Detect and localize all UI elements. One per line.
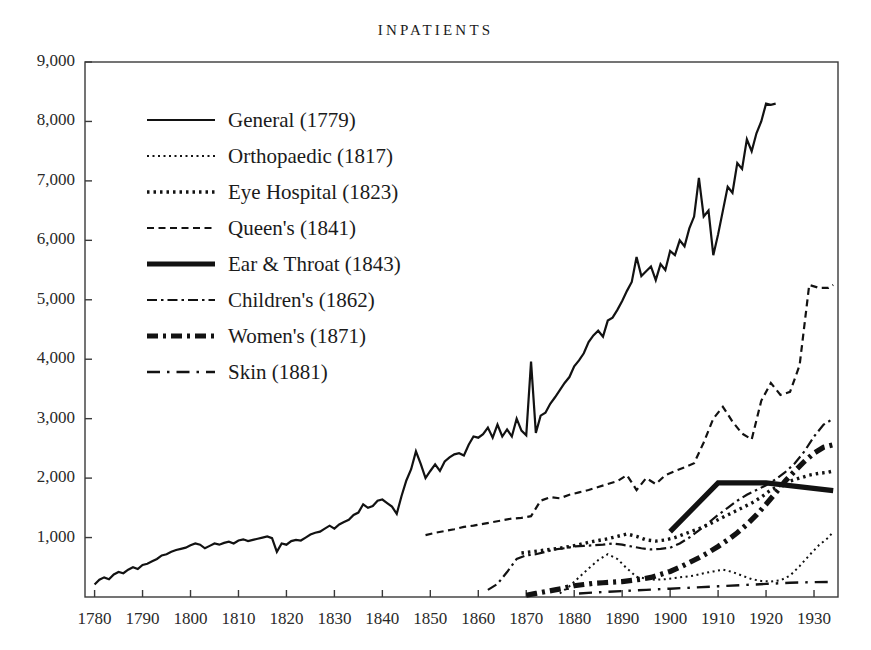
legend-item-general[interactable]: General (1779) (146, 102, 476, 138)
chart-figure: INPATIENTS 1,0002,0003,0004,0005,0006,00… (0, 0, 871, 650)
legend-item-childrens[interactable]: Children's (1862) (146, 282, 476, 318)
x-tick-label: 1930 (784, 609, 844, 629)
legend-item-label: Skin (1881) (228, 362, 328, 383)
legend-line-swatch (146, 329, 216, 343)
y-tick-label: 3,000 (37, 408, 75, 428)
legend-item-skin[interactable]: Skin (1881) (146, 354, 476, 390)
y-tick-label: 5,000 (37, 289, 75, 309)
y-tick-label: 1,000 (37, 527, 75, 547)
legend-item-orthopaedic[interactable]: Orthopaedic (1817) (146, 138, 476, 174)
legend-item-label: Queen's (1841) (228, 218, 356, 239)
legend-item-label: Women's (1871) (228, 326, 366, 347)
legend-item-label: Orthopaedic (1817) (228, 146, 393, 167)
legend-line-swatch (146, 113, 216, 127)
legend-line-swatch (146, 185, 216, 199)
legend-item-queens[interactable]: Queen's (1841) (146, 210, 476, 246)
legend-line-swatch (146, 293, 216, 307)
y-tick-label: 6,000 (37, 229, 75, 249)
legend-item-womens[interactable]: Women's (1871) (146, 318, 476, 354)
y-tick-label: 8,000 (37, 110, 75, 130)
legend-line-swatch (146, 221, 216, 235)
legend-item-label: General (1779) (228, 110, 356, 131)
y-tick-label: 4,000 (37, 348, 75, 368)
series-line (670, 483, 833, 532)
y-tick-label: 2,000 (37, 467, 75, 487)
legend-item-label: Ear & Throat (1843) (228, 254, 401, 275)
legend-item-ear-and-throat[interactable]: Ear & Throat (1843) (146, 246, 476, 282)
chart-legend: General (1779)Orthopaedic (1817)Eye Hosp… (146, 102, 476, 390)
y-tick-label: 9,000 (37, 51, 75, 71)
series-line (579, 582, 833, 594)
legend-line-swatch (146, 365, 216, 379)
legend-item-label: Children's (1862) (228, 290, 375, 311)
y-tick-label: 7,000 (37, 170, 75, 190)
legend-item-label: Eye Hospital (1823) (228, 182, 398, 203)
legend-item-eye-hospital[interactable]: Eye Hospital (1823) (146, 174, 476, 210)
legend-line-swatch (146, 149, 216, 163)
legend-line-swatch (146, 257, 216, 271)
